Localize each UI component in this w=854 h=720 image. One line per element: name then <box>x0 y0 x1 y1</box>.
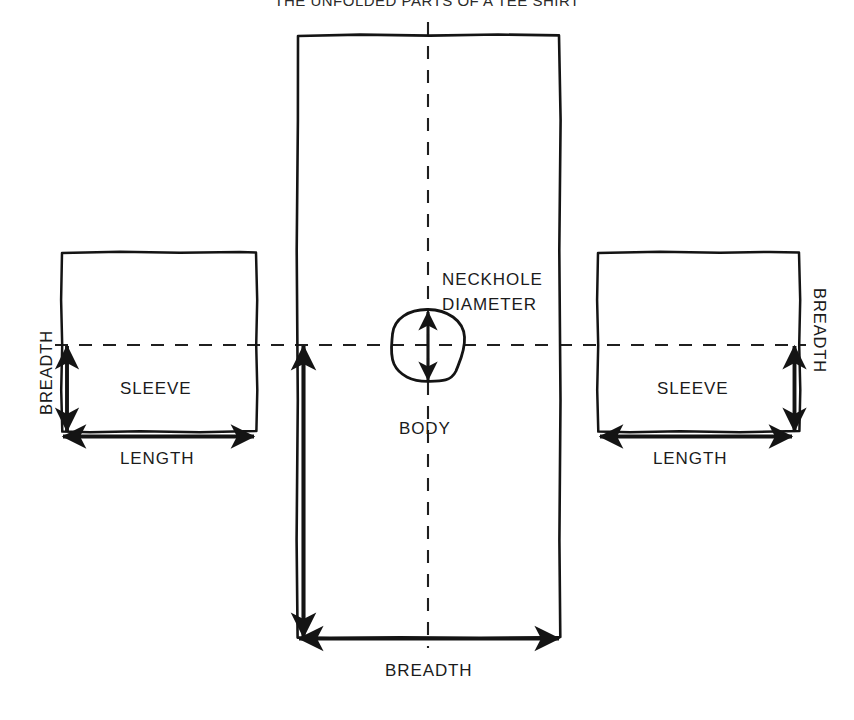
sleeve-right-label: SLEEVE <box>657 380 729 397</box>
neckhole-label-line1: NECKHOLE <box>442 271 543 288</box>
sleeve-left-length-label: LENGTH <box>120 450 194 467</box>
sleeve-right-length-label: LENGTH <box>653 450 727 467</box>
guide-lines <box>55 22 806 648</box>
sleeve-left-breadth-label: BREADTH <box>38 330 55 415</box>
sleeve-left-outline <box>61 252 257 432</box>
garment-pattern-svg <box>0 0 854 720</box>
sleeve-right-outline <box>597 252 800 432</box>
diagram-canvas: THE UNFOLDED PARTS OF A TEE SHIRT <box>0 0 854 720</box>
sleeve-right-breadth-label: BREADTH <box>812 288 829 373</box>
neckhole-label-line2: DIAMETER <box>442 296 537 313</box>
sleeve-left-label: SLEEVE <box>120 380 192 397</box>
body-breadth-label: BREADTH <box>385 662 473 679</box>
sleeve-right-panel <box>597 252 800 437</box>
body-label: BODY <box>399 420 451 437</box>
